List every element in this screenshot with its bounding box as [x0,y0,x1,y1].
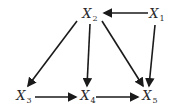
edges-group [28,13,155,97]
node-label-subscript: 4 [91,96,96,105]
edge-x1-to-x5 [149,25,155,86]
node-label-base: X [142,88,151,103]
node-x2: X2 [82,7,97,23]
node-x5: X5 [142,89,157,105]
node-x3: X3 [16,89,31,105]
edge-x2-to-x5 [102,21,143,86]
node-label-subscript: 5 [153,96,158,105]
node-x4: X4 [80,89,95,105]
node-label-subscript: 2 [93,14,98,23]
node-label-subscript: 1 [160,14,165,23]
node-label-base: X [80,88,89,103]
node-label-base: X [16,88,25,103]
node-label-base: X [82,6,91,21]
node-x1: X1 [149,7,164,23]
node-label-base: X [149,6,158,21]
edge-x2-to-x4 [87,24,90,86]
node-label-subscript: 3 [27,96,32,105]
edge-x2-to-x3 [28,21,77,86]
